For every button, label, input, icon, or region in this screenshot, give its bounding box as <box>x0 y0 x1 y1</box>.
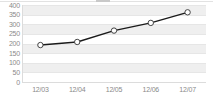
series-markers <box>38 10 191 48</box>
data-point-marker[interactable] <box>111 28 116 33</box>
line-chart: 400350300250200150100500 12/0312/0412/05… <box>0 0 213 102</box>
series-layer <box>0 0 213 102</box>
data-point-marker[interactable] <box>148 20 153 25</box>
data-point-marker[interactable] <box>38 42 43 47</box>
data-point-marker[interactable] <box>185 10 190 15</box>
data-point-marker[interactable] <box>75 39 80 44</box>
